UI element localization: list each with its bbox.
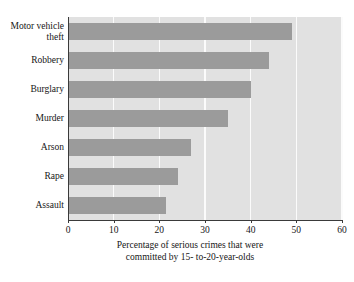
x-tick-label-50: 50 xyxy=(284,225,308,236)
y-axis-line xyxy=(68,17,69,220)
category-label-line-1: Burglary xyxy=(0,84,64,95)
bar-row xyxy=(68,110,228,127)
x-tick-label-40: 40 xyxy=(239,225,263,236)
category-label: Motor vehicletheft xyxy=(0,21,64,42)
bar-row xyxy=(68,139,191,156)
category-label-line-1: Murder xyxy=(0,113,64,124)
bar xyxy=(68,168,178,185)
bar xyxy=(68,81,251,98)
category-label: Robbery xyxy=(0,55,64,66)
x-tick-label-0: 0 xyxy=(56,225,80,236)
x-tick-label-10: 10 xyxy=(102,225,126,236)
bar xyxy=(68,52,269,69)
category-label-line-1: Assault xyxy=(0,200,64,211)
x-axis-title-line-1: Percentage of serious crimes that were xyxy=(50,240,330,252)
gridline-40 xyxy=(250,17,251,220)
category-label-line-1: Arson xyxy=(0,142,64,153)
gridline-60 xyxy=(341,17,342,220)
category-label-line-1: Motor vehicle xyxy=(0,21,64,32)
category-label: Murder xyxy=(0,113,64,124)
x-axis-title: Percentage of serious crimes that were c… xyxy=(50,240,330,263)
x-tick-label-60: 60 xyxy=(330,225,354,236)
x-axis-title-line-2: committed by 15- to-20-year-olds xyxy=(50,252,330,264)
x-tick-mark-20 xyxy=(159,220,160,223)
category-label-line-1: Robbery xyxy=(0,55,64,66)
x-tick-label-20: 20 xyxy=(147,225,171,236)
bar xyxy=(68,197,166,214)
category-label: Assault xyxy=(0,200,64,211)
bar xyxy=(68,139,191,156)
bar-chart-figure: Motor vehicletheftRobberyBurglaryMurderA… xyxy=(0,0,354,282)
category-label: Rape xyxy=(0,171,64,182)
category-label-line-1: Rape xyxy=(0,171,64,182)
x-tick-mark-60 xyxy=(342,220,343,223)
x-tick-mark-40 xyxy=(251,220,252,223)
bar-row xyxy=(68,81,251,98)
gridline-50 xyxy=(296,17,297,220)
bar-row xyxy=(68,23,292,40)
bar-row xyxy=(68,52,269,69)
bar xyxy=(68,23,292,40)
category-label-line-2: theft xyxy=(0,32,64,43)
plot-area xyxy=(68,17,342,220)
bar-row xyxy=(68,197,166,214)
category-axis: Motor vehicletheftRobberyBurglaryMurderA… xyxy=(0,17,64,220)
category-label: Arson xyxy=(0,142,64,153)
x-tick-mark-10 xyxy=(114,220,115,223)
x-tick-mark-0 xyxy=(68,220,69,223)
x-tick-label-30: 30 xyxy=(193,225,217,236)
category-label: Burglary xyxy=(0,84,64,95)
x-tick-mark-50 xyxy=(296,220,297,223)
x-tick-mark-30 xyxy=(205,220,206,223)
bar-row xyxy=(68,168,178,185)
bar xyxy=(68,110,228,127)
